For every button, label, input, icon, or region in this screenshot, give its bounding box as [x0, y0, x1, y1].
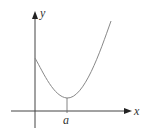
y-axis-label: y — [39, 6, 46, 20]
x-axis-label: x — [133, 104, 140, 118]
min-point-label: a — [63, 113, 69, 127]
y-axis-arrow-icon — [32, 11, 38, 19]
function-curve — [35, 21, 111, 98]
x-axis-arrow-icon — [124, 108, 132, 114]
graph-canvas: y x a — [0, 0, 142, 138]
